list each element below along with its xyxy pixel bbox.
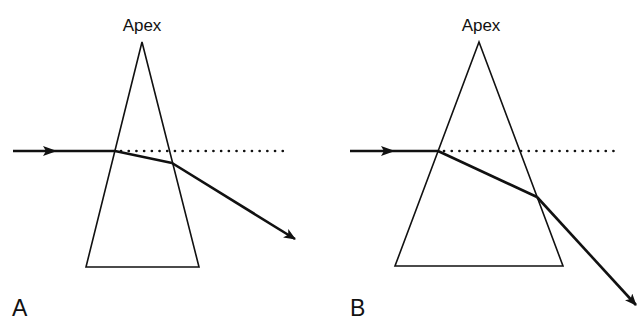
diagram-canvas: Apex A Apex B [0,0,642,330]
internal-ray-a [115,151,172,163]
panel-a: Apex A [12,16,295,321]
emergent-ray-a [172,163,295,239]
panel-b: Apex B [350,16,636,321]
apex-label-b: Apex [462,16,501,35]
panel-label-b: B [350,295,365,321]
panel-label-a: A [12,295,28,321]
prism-refraction-diagram: Apex A Apex B [0,0,642,330]
prism-a [86,42,199,267]
prism-b [395,42,563,266]
emergent-ray-b [537,197,636,305]
apex-label-a: Apex [123,16,162,35]
